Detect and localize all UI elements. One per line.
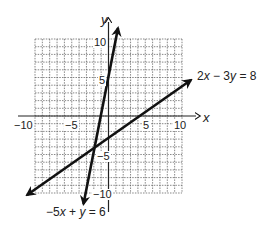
coordinate-plane [0,0,264,238]
x-tick-neg5: −5 [64,120,79,131]
y-axis-label: y [101,13,108,26]
equation-label-line2: −5x + y = 6 [46,206,106,218]
y-tick-neg10: −10 [92,189,113,200]
x-tick-5: 5 [142,120,150,131]
x-axis-label: x [203,111,210,124]
y-tick-neg5: −5 [96,151,111,162]
x-tick-10: 10 [173,120,187,131]
y-tick-5: 5 [98,75,106,86]
equation-label-line1: 2x − 3y = 8 [197,70,256,82]
x-tick-neg10: −10 [13,120,34,131]
y-tick-10: 10 [93,37,107,48]
